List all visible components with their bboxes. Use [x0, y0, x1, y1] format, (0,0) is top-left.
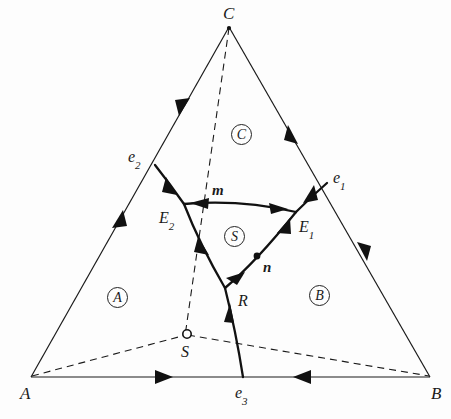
- point-label-E2-base: E: [159, 209, 169, 226]
- vertex-label-B: B: [431, 385, 441, 402]
- arrow-e2-to-E2-icon: [162, 177, 177, 195]
- arrow-m-to-E2-icon: [190, 198, 209, 209]
- point-label-e3: e3: [235, 385, 248, 404]
- phase-field-label-S: S: [224, 226, 245, 247]
- arrow-A-to-e3-icon: [155, 370, 173, 384]
- point-label-e2-subscript: 2: [135, 159, 141, 171]
- point-label-E2: E2: [159, 210, 174, 229]
- point-label-E2-subscript: 2: [169, 220, 175, 232]
- point-label-S: S: [181, 344, 189, 360]
- point-label-e1: e1: [333, 170, 346, 189]
- point-label-E1-subscript: 1: [309, 229, 315, 241]
- point-label-m: m: [212, 183, 224, 198]
- point-label-E1-base: E: [299, 218, 309, 235]
- construction-line-S-B: [188, 335, 429, 376]
- edge-C-B: [229, 27, 430, 377]
- point-label-e3-subscript: 3: [242, 395, 248, 407]
- arrow-m-to-E1-icon: [269, 203, 288, 214]
- point-label-R: R: [238, 293, 248, 309]
- point-marker-n: [254, 253, 261, 260]
- arrow-C-to-e2-icon: [175, 98, 190, 116]
- point-label-e2: e2: [128, 149, 141, 168]
- arrow-B-to-e1-icon: [357, 242, 371, 261]
- phase-field-label-B: B: [309, 285, 330, 306]
- arrow-B-to-e3-icon: [293, 370, 311, 384]
- phase-field-label-C: C: [231, 124, 252, 145]
- point-label-E1: E1: [299, 219, 314, 238]
- ternary-phase-diagram: A B C e1 e2 e3 E1 E2 R S m n A B C S: [0, 0, 451, 419]
- arrow-n-to-E1-icon: [277, 218, 291, 234]
- arrow-C-to-e1-icon: [284, 125, 298, 144]
- point-label-e1-subscript: 1: [340, 180, 346, 192]
- point-label-n: n: [263, 260, 271, 275]
- curve-E2-R: [184, 204, 225, 288]
- construction-line-A-S: [32, 335, 186, 376]
- arrow-R-to-n-icon: [226, 272, 245, 285]
- arrow-E2-to-R-icon: [194, 237, 209, 255]
- vertex-label-A: A: [20, 385, 30, 402]
- point-marker-C: [227, 26, 231, 30]
- vertex-label-C: C: [223, 5, 234, 22]
- arrow-A-to-e2-icon: [112, 210, 127, 228]
- diagram-canvas: [0, 0, 451, 419]
- arrow-e1-to-E1-icon: [303, 185, 318, 203]
- phase-field-label-A: A: [107, 287, 128, 308]
- point-marker-S: [183, 330, 191, 338]
